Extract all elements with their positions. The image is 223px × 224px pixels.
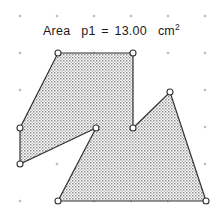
area-label-exponent: 2 (175, 22, 180, 32)
area-label-unit: cm (158, 24, 175, 38)
geometry-canvas[interactable]: Area p1 = 13.00 cm2 (0, 0, 223, 224)
geometry-applet: Area p1 = 13.00 cm2 (0, 0, 223, 224)
polygon-vertex-d[interactable] (167, 89, 173, 95)
polygon-vertex-b[interactable] (130, 50, 136, 56)
polygon-vertex-c[interactable] (130, 125, 136, 131)
polygon-p1[interactable] (20, 53, 206, 201)
polygon-vertex-h[interactable] (17, 161, 23, 167)
area-label-object: p1 (81, 24, 95, 38)
polygon-vertex-e[interactable] (203, 198, 209, 204)
polygon-vertex-f[interactable] (55, 198, 61, 204)
polygon-vertex-i[interactable] (17, 125, 23, 131)
area-label-name: Area (43, 24, 70, 38)
area-label-equals: = (99, 24, 111, 38)
area-measurement-label: Area p1 = 13.00 cm2 (0, 24, 223, 38)
polygon-vertex-g[interactable] (93, 125, 99, 131)
polygon-vertex-a[interactable] (55, 50, 61, 56)
area-label-value: 13.00 (115, 24, 147, 38)
